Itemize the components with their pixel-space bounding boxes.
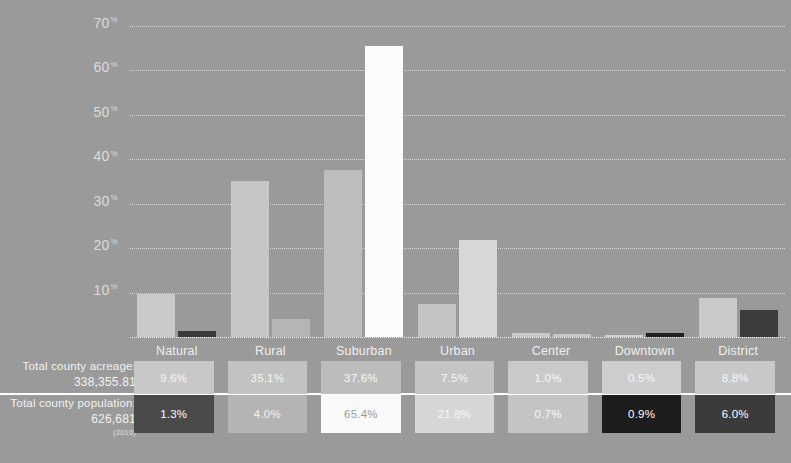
column-header-center: Center (504, 344, 598, 358)
column-header-urban: Urban (411, 344, 505, 358)
y-axis-tick-60: 60% (0, 59, 118, 75)
bar-district-population (740, 310, 778, 337)
cell-urban-acreage: 7.5% (415, 361, 495, 394)
y-axis-tick-70: 70% (0, 15, 118, 31)
bar-group-urban (411, 0, 505, 337)
row-label-population-value: 626,681 (0, 411, 136, 427)
bar-suburban-acreage (324, 170, 362, 337)
row-label-population-note: (2010) (0, 427, 136, 438)
cell-downtown-acreage: 0.5% (602, 361, 682, 394)
data-table: NaturalRuralSuburbanUrbanCenterDowntownD… (0, 337, 791, 463)
bar-group-downtown (598, 0, 692, 337)
cell-natural-acreage: 9.6% (134, 361, 214, 394)
y-axis-tick-30: 30% (0, 193, 118, 209)
column-header-suburban: Suburban (317, 344, 411, 358)
row-label-population-title: Total county population: (0, 396, 136, 411)
bar-group-suburban (317, 0, 411, 337)
bar-rural-acreage (231, 181, 269, 337)
cell-rural-population: 4.0% (228, 395, 308, 433)
bar-group-center (504, 0, 598, 337)
cell-suburban-acreage: 37.6% (321, 361, 401, 394)
bar-urban-acreage (418, 304, 456, 337)
bar-group-natural (130, 0, 224, 337)
land-use-chart: 10%20%30%40%50%60%70% NaturalRuralSuburb… (0, 0, 791, 463)
bar-suburban-population (365, 46, 403, 337)
cell-suburban-population: 65.4% (321, 395, 401, 433)
column-header-downtown: Downtown (598, 344, 692, 358)
column-header-rural: Rural (224, 344, 318, 358)
y-axis-tick-10: 10% (0, 282, 118, 298)
y-axis-tick-50: 50% (0, 104, 118, 120)
column-header-district: District (691, 344, 785, 358)
bar-district-acreage (699, 298, 737, 337)
bar-rural-population (272, 319, 310, 337)
bar-layer (130, 0, 785, 337)
column-header-natural: Natural (130, 344, 224, 358)
y-axis-tick-40: 40% (0, 148, 118, 164)
cell-downtown-population: 0.9% (602, 395, 682, 433)
bar-urban-population (459, 240, 497, 337)
row-label-population: Total county population: 626,681 (2010) (0, 396, 136, 438)
cell-rural-acreage: 35.1% (228, 361, 308, 394)
cell-urban-population: 21.8% (415, 395, 495, 433)
row-label-acreage: Total county acreage: 338,355.81 (0, 359, 136, 390)
bar-group-district (691, 0, 785, 337)
cell-natural-population: 1.3% (134, 395, 214, 433)
bar-natural-acreage (137, 294, 175, 337)
cell-district-acreage: 8.8% (695, 361, 775, 394)
row-label-acreage-value: 338,355.81 (0, 374, 136, 390)
cell-district-population: 6.0% (695, 395, 775, 433)
plot-area: 10%20%30%40%50%60%70% (0, 0, 791, 345)
cell-center-acreage: 1.0% (508, 361, 588, 394)
cell-center-population: 0.7% (508, 395, 588, 433)
y-axis-tick-20: 20% (0, 237, 118, 253)
bar-group-rural (224, 0, 318, 337)
row-label-acreage-title: Total county acreage: (0, 359, 136, 374)
